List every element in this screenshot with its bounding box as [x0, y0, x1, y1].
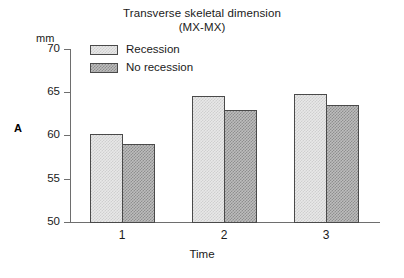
- x-tick-label-1: 1: [102, 228, 142, 242]
- bar-no-recession-time-2: [224, 110, 257, 223]
- y-tick-label-65: 65: [28, 85, 60, 97]
- legend-swatch-recession: [90, 45, 118, 55]
- x-axis-title: Time: [0, 248, 404, 260]
- bar-recession-time-1: [90, 134, 123, 223]
- chart-figure: Transverse skeletal dimension (MX-MX) A …: [0, 0, 404, 278]
- legend-swatch-no-recession: [90, 63, 118, 73]
- y-tick-label-50: 50: [28, 215, 60, 227]
- y-tick-mark-50: [64, 222, 70, 223]
- y-tick-mark-60: [64, 135, 70, 136]
- plot-area: 70 65 60 55 50 1 2 3 Time: [0, 0, 404, 278]
- legend-label-recession: Recession: [126, 43, 180, 55]
- legend-label-no-recession: No recession: [126, 61, 193, 73]
- y-tick-mark-65: [64, 92, 70, 93]
- x-tick-label-3: 3: [306, 228, 346, 242]
- bar-no-recession-time-1: [122, 144, 155, 223]
- y-tick-label-55: 55: [28, 172, 60, 184]
- y-tick-label-70: 70: [28, 42, 60, 54]
- y-tick-mark-70: [64, 49, 70, 50]
- y-axis-line: [70, 49, 71, 223]
- y-tick-mark-55: [64, 179, 70, 180]
- bar-recession-time-3: [294, 94, 327, 223]
- y-tick-label-60: 60: [28, 128, 60, 140]
- bar-recession-time-2: [192, 96, 225, 223]
- bar-no-recession-time-3: [326, 105, 359, 223]
- x-tick-label-2: 2: [204, 228, 244, 242]
